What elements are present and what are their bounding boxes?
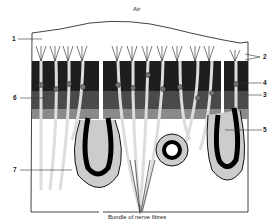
bowman-gland-center — [156, 134, 188, 166]
olfactory-epithelium-diagram: Air Bundle of nerve fibres 1 2 3 4 5 6 7 — [0, 0, 279, 223]
air-label: Air — [133, 6, 140, 12]
label-4: 4 — [263, 80, 267, 87]
label-3: 3 — [263, 92, 267, 99]
bowman-gland-right — [207, 108, 244, 180]
label-6: 6 — [13, 95, 17, 102]
label-1: 1 — [12, 36, 16, 43]
diagram-illustration — [0, 0, 279, 223]
label-5: 5 — [263, 127, 267, 134]
bowman-gland-left — [74, 118, 121, 188]
nerve-bundle-label: Bundle of nerve fibres — [108, 214, 166, 220]
label-2: 2 — [263, 54, 267, 61]
label-7: 7 — [13, 167, 17, 174]
